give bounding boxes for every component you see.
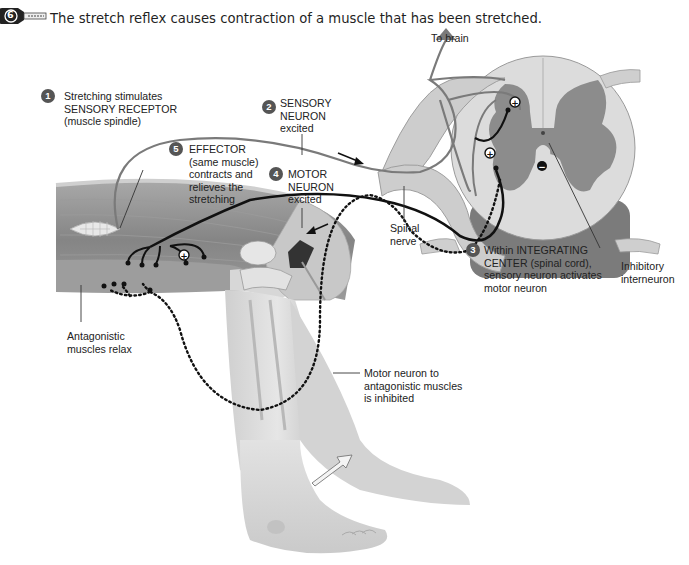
step-5-label: 5 EFFECTOR (same muscle) contracts and r… — [189, 143, 258, 206]
label-inhibitory-interneuron: Inhibitory interneuron — [621, 260, 675, 285]
svg-text:+: + — [180, 251, 188, 261]
step-4-badge: 4 — [269, 167, 283, 181]
step-1-label: 1 Stretching stimulates SENSORY RECEPTOR… — [64, 90, 177, 128]
step-2-badge: 2 — [262, 100, 276, 114]
step-3-badge: 3 — [466, 243, 480, 257]
svg-text:−: − — [538, 162, 546, 172]
label-spinal-nerve: Spinal nerve — [390, 222, 419, 247]
label-antagonistic-relax: Antagonistic muscles relax — [67, 330, 132, 355]
step-3-label: 3 Within INTEGRATING CENTER (spinal cord… — [484, 244, 602, 294]
step-1-badge: 1 — [41, 89, 55, 103]
svg-text:+: + — [486, 149, 494, 159]
lower-leg — [225, 290, 470, 553]
step-2-label: 2 SENSORY NEURON excited — [280, 97, 332, 135]
step-4-label: 4 MOTOR NEURON excited — [288, 168, 334, 206]
svg-text:+: + — [511, 98, 519, 108]
step-5-badge: 5 — [169, 142, 183, 156]
label-to-brain: To brain — [431, 32, 469, 45]
label-motor-inhibited: Motor neuron to antagonistic muscles is … — [364, 367, 462, 405]
